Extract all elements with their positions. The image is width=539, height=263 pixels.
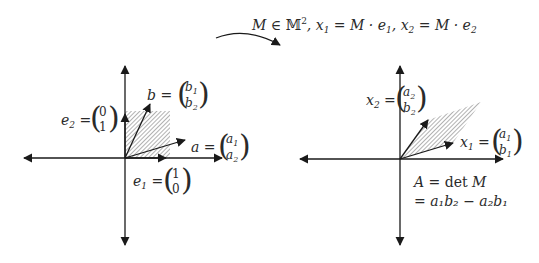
e2-vector-label: e2 = ( 0 1 ) [61,100,120,135]
svg-text:a1: a1 [499,127,511,143]
svg-text:b1: b1 [499,143,512,159]
svg-text:): ) [198,76,210,111]
right-diagram: x2 = ( a2 b2 ) x1 = ( a1 b1 ) A = det M … [300,66,524,245]
transform-curved-arrow [216,33,280,45]
svg-text:a =: a = [191,139,216,155]
svg-text:b2: b2 [185,96,198,112]
e1-vector-label: e1 = ( 1 0 ) [133,162,193,197]
x1-vector-label: x1 = ( a1 b1 ) [460,123,524,159]
area-formula-line2: = a₁b₂ − a₂b₁ [414,193,508,209]
svg-text:1: 1 [99,120,107,134]
svg-text:): ) [181,162,193,197]
b-vector-label: b = ( b1 b2 ) [147,76,210,112]
svg-text:b =: b = [147,87,172,103]
x2-vector-label: x2 = ( a2 b2 ) [366,80,428,117]
svg-text:b1: b1 [185,80,198,96]
left-diagram: b = ( b1 b2 ) e2 = ( 0 1 ) a = ( a1 a2 )… [24,66,251,245]
svg-text:a2: a2 [226,148,238,164]
diagram-canvas: M ∈ 𝕄2, x1 = M · e1, x2 = M · e2 b = ( b… [0,0,539,263]
svg-text:0: 0 [172,182,180,196]
svg-text:): ) [108,100,120,135]
svg-text:): ) [239,128,251,163]
svg-text:1: 1 [172,167,180,181]
svg-text:): ) [512,123,524,158]
svg-text:x1 =: x1 = [460,134,490,152]
svg-text:a2: a2 [403,85,415,101]
svg-text:): ) [416,80,428,115]
area-formula-line1: A = det M [412,174,487,190]
svg-text:x2 =: x2 = [366,92,396,110]
svg-text:e2 =: e2 = [61,112,91,130]
svg-text:e1 =: e1 = [133,173,163,191]
svg-text:a1: a1 [226,132,238,148]
transform-formula: M ∈ 𝕄2, x1 = M · e1, x2 = M · e2 [251,16,477,35]
svg-text:b2: b2 [403,101,416,117]
svg-text:0: 0 [99,105,107,119]
